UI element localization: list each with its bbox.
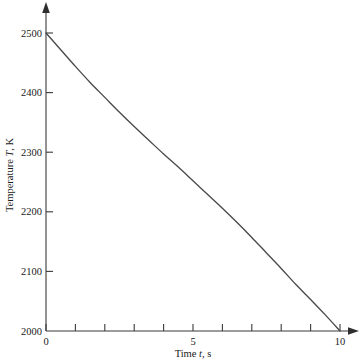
- chart-figure: 2500 2400 2300 2200 2100 2000 Temperatur…: [0, 0, 363, 361]
- x-axis-title: Time t, s: [175, 348, 212, 359]
- x-axis-arrow-icon: [348, 327, 359, 335]
- temperature-time-line-chart: 2500 2400 2300 2200 2100 2000 Temperatur…: [0, 0, 363, 361]
- y-axis-title-prefix: Temperature: [4, 157, 15, 213]
- svg-text:Temperature T, K: Temperature T, K: [4, 137, 15, 212]
- y-tick-label-2500: 2500: [21, 28, 42, 39]
- x-axis-title-suffix: , s: [202, 348, 211, 359]
- y-axis-title: Temperature T, K: [4, 137, 15, 212]
- y-tick-label-2100: 2100: [21, 266, 42, 277]
- data-series-group: [46, 33, 340, 331]
- y-tick-label-2000: 2000: [21, 326, 42, 337]
- x-axis-title-prefix: Time: [175, 348, 199, 359]
- time-axis: 0 5 10 Time t, s: [43, 324, 359, 359]
- temperature-curve: [46, 33, 340, 331]
- y-tick-label-2400: 2400: [21, 87, 42, 98]
- y-tick-label-2200: 2200: [21, 206, 42, 217]
- x-tick-label-5: 5: [190, 336, 195, 347]
- x-tick-label-10: 10: [335, 336, 346, 347]
- temperature-axis: 2500 2400 2300 2200 2100 2000 Temperatur…: [4, 2, 53, 337]
- y-axis-title-suffix: , K: [4, 137, 15, 150]
- y-axis-arrow-icon: [42, 2, 50, 13]
- y-tick-label-2300: 2300: [21, 147, 42, 158]
- x-tick-label-0: 0: [43, 336, 48, 347]
